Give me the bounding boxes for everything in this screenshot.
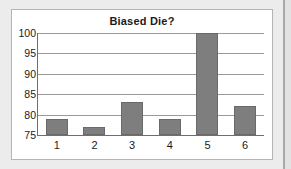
- plot-area: [38, 33, 264, 135]
- bar[interactable]: [121, 102, 143, 135]
- x-axis-tick-label: 1: [54, 138, 60, 152]
- x-axis-tick-label: 5: [204, 138, 210, 152]
- bar-slot: [226, 33, 264, 135]
- y-axis-tick-label: 95: [12, 48, 36, 59]
- x-axis-tick-label: 3: [129, 138, 135, 152]
- bar-slot: [38, 33, 76, 135]
- y-axis-tick-label: 75: [12, 130, 36, 141]
- page-edge-gap: [285, 0, 291, 169]
- x-axis-tick-label: 4: [167, 138, 173, 152]
- bar[interactable]: [234, 106, 256, 135]
- bar-slot: [189, 33, 227, 135]
- y-axis-tick-label: 100: [12, 28, 36, 39]
- x-axis-tick-label: 6: [242, 138, 248, 152]
- bar-slot: [151, 33, 189, 135]
- x-axis-tick-labels: 123456: [38, 138, 264, 156]
- chart-title: Biased Die?: [12, 15, 272, 27]
- y-axis-tick-label: 80: [12, 109, 36, 120]
- bar[interactable]: [159, 119, 181, 135]
- x-axis-tick-label: 2: [91, 138, 97, 152]
- bar-series: [38, 33, 264, 135]
- bar[interactable]: [83, 127, 105, 135]
- y-axis-tick-label: 85: [12, 89, 36, 100]
- chart-container: Biased Die? 7580859095100 123456: [11, 9, 273, 160]
- bar-slot: [76, 33, 114, 135]
- gridline: [38, 135, 264, 136]
- bar-slot: [113, 33, 151, 135]
- y-axis-tick-label: 90: [12, 69, 36, 80]
- bar[interactable]: [196, 33, 218, 135]
- y-axis-tick-labels: 7580859095100: [12, 33, 36, 135]
- bar[interactable]: [46, 119, 68, 135]
